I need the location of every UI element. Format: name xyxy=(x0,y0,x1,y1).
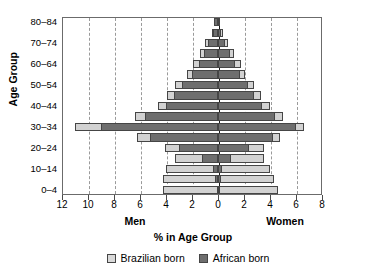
bar-row xyxy=(62,102,322,110)
bar-women-african-born xyxy=(218,49,230,57)
x-axis-tick-label: 6 xyxy=(128,200,152,210)
population-pyramid-chart: Age Group 0–410–1420–2430–3440–4450–5460… xyxy=(0,0,376,280)
y-axis-tick-label: 20–24 xyxy=(31,143,57,153)
bar-row xyxy=(62,70,322,78)
bar-men-brazilian-born xyxy=(166,165,218,173)
x-axis-tick-label: 8 xyxy=(310,200,334,210)
bar-women-african-born xyxy=(218,112,275,120)
bar-men-brazilian-born xyxy=(163,175,218,183)
bar-women-african-born xyxy=(218,81,248,89)
bar-women-african-born xyxy=(218,186,220,194)
x-axis-tick-label: 6 xyxy=(284,200,308,210)
bar-row xyxy=(62,60,322,68)
bar-row xyxy=(62,39,322,47)
x-axis-tick-label: 0 xyxy=(206,200,230,210)
bar-men-brazilian-born xyxy=(163,186,218,194)
bar-men-african-born xyxy=(101,123,218,131)
bar-row xyxy=(62,175,322,183)
bar-women-african-born xyxy=(218,60,235,68)
bar-women-brazilian-born xyxy=(218,165,270,173)
bar-women-african-born xyxy=(218,102,262,110)
y-axis-tick-label: 80–84 xyxy=(31,17,57,27)
bar-men-african-born xyxy=(204,49,218,57)
bars-layer xyxy=(62,17,322,195)
legend-label-african-born: African born xyxy=(213,253,270,264)
bar-row xyxy=(62,49,322,57)
bar-women-african-born xyxy=(218,70,240,78)
bar-women-african-born xyxy=(218,18,220,26)
bar-row xyxy=(62,165,322,173)
bar-women-african-born xyxy=(218,144,249,152)
bar-men-african-born xyxy=(192,70,218,78)
x-axis-tick-label: 4 xyxy=(154,200,178,210)
x-axis-tick-label: 10 xyxy=(76,200,100,210)
bar-men-african-born xyxy=(182,81,218,89)
y-axis-tick-label: 10–14 xyxy=(31,164,57,174)
x-axis-tick-label: 8 xyxy=(102,200,126,210)
x-axis-tick-label: 4 xyxy=(258,200,282,210)
y-axis-tick-label: 40–44 xyxy=(31,101,57,111)
bar-men-african-born xyxy=(208,39,218,47)
legend-label-brazilian-born: Brazilian born xyxy=(121,253,185,264)
bar-row xyxy=(62,144,322,152)
bar-row xyxy=(62,18,322,26)
bar-women-african-born xyxy=(218,165,222,173)
x-axis-tick-label: 12 xyxy=(50,200,74,210)
y-axis-tick-label: 0–4 xyxy=(41,185,57,195)
legend-swatch-brazilian-born xyxy=(107,254,116,263)
x-axis-title: % in Age Group xyxy=(88,232,298,243)
bar-men-african-born xyxy=(202,154,218,162)
bar-row xyxy=(62,81,322,89)
chart-legend: Brazilian born African born xyxy=(0,253,376,264)
y-axis-tick-label: 60–64 xyxy=(31,59,57,69)
y-axis-tick-label: 30–34 xyxy=(31,122,57,132)
bar-row xyxy=(62,29,322,37)
y-axis-tick-label: 70–74 xyxy=(31,38,57,48)
bar-women-african-born xyxy=(218,39,225,47)
bar-row xyxy=(62,186,322,194)
bar-men-african-born xyxy=(174,91,218,99)
x-axis-tick-label: 2 xyxy=(180,200,204,210)
legend-item-african-born: African born xyxy=(199,253,270,264)
women-side-label: Women xyxy=(250,216,320,227)
bar-women-african-born xyxy=(218,175,221,183)
legend-item-brazilian-born: Brazilian born xyxy=(107,253,185,264)
bar-row xyxy=(62,91,322,99)
x-axis-tick-label: 2 xyxy=(232,200,256,210)
bar-women-brazilian-born xyxy=(218,186,278,194)
bar-men-african-born xyxy=(150,133,218,141)
bar-row xyxy=(62,154,322,162)
bar-men-african-born xyxy=(145,112,218,120)
bar-men-african-born xyxy=(179,144,218,152)
bar-women-african-born xyxy=(218,91,254,99)
y-axis-tick-label: 50–54 xyxy=(31,80,57,90)
bar-row xyxy=(62,123,322,131)
bar-women-african-born xyxy=(218,154,231,162)
y-axis-tick-labels: 0–410–1420–2430–3440–4450–5460–6470–7480… xyxy=(0,17,57,195)
x-axis-tick-labels: 1210864202468 xyxy=(62,200,322,214)
bar-men-african-born xyxy=(166,102,218,110)
bar-women-african-born xyxy=(218,123,296,131)
legend-swatch-african-born xyxy=(199,254,208,263)
men-side-label: Men xyxy=(105,216,165,227)
bar-men-african-born xyxy=(199,60,219,68)
bar-row xyxy=(62,133,322,141)
bar-row xyxy=(62,112,322,120)
bar-women-african-born xyxy=(218,133,273,141)
bar-women-brazilian-born xyxy=(218,175,274,183)
bar-women-african-born xyxy=(218,29,221,37)
